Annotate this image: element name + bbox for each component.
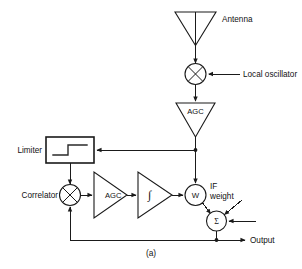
if-weight-annotation-line2: weight (209, 192, 234, 201)
correlator-symbol (60, 185, 81, 206)
correlator-label: Correlator (22, 191, 59, 200)
limiter-block (46, 137, 94, 163)
weight-label: W (192, 191, 200, 200)
if-weight-annotation-line1: IF (210, 182, 217, 191)
wire-weight-to-summer (203, 203, 211, 214)
figure-caption: (a) (146, 248, 156, 258)
summer-label: Σ (214, 217, 219, 226)
wire-summer-aux-input-diagonal (225, 200, 243, 215)
local-oscillator-label: Local oscillator (243, 70, 297, 79)
figure-root: Antenna Local oscillator AGC (0, 0, 302, 269)
mixer-symbol (185, 64, 206, 85)
agc-rf-label: AGC (187, 107, 204, 116)
output-label: Output (250, 236, 275, 245)
integrator-symbol (138, 172, 172, 218)
antenna-symbol (175, 12, 216, 46)
block-diagram-canvas: Antenna Local oscillator AGC (0, 0, 302, 269)
antenna-label: Antenna (222, 15, 253, 24)
limiter-label: Limiter (17, 146, 42, 155)
agc-loop-label: AGC (105, 191, 122, 200)
integrator-label: ∫ (147, 188, 152, 202)
